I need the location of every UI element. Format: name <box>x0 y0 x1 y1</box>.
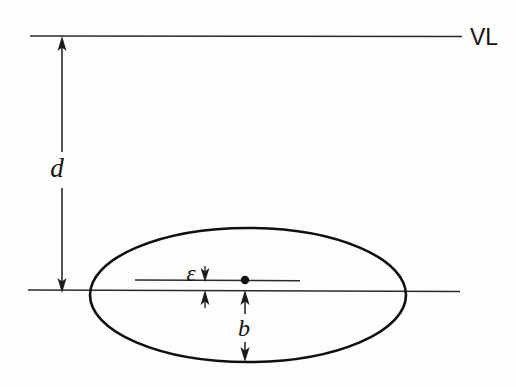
dimension-d-group: d <box>46 36 70 293</box>
dimension-b-label: b <box>238 315 250 341</box>
visual-line-label: VL <box>470 24 498 50</box>
dimension-b-group: b <box>232 290 256 362</box>
visual-line <box>30 36 462 37</box>
dimension-d-label: d <box>50 153 64 183</box>
major-axis-line <box>135 280 300 281</box>
figure-root: d ε b VL <box>0 0 516 387</box>
dimension-epsilon-group: ε <box>186 261 209 308</box>
dimension-epsilon-label: ε <box>186 261 196 286</box>
ground-reference-line <box>28 290 460 292</box>
ellipse-center-dot <box>241 276 249 284</box>
ellipse-visual-line-diagram: d ε b VL <box>0 0 516 387</box>
